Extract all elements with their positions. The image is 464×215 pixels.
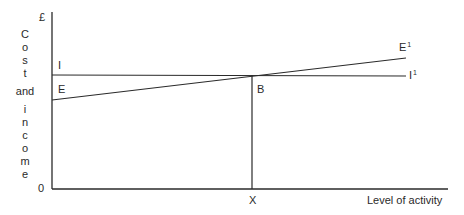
origin-label: 0 [38, 183, 44, 194]
income-end-superscript: 1 [413, 69, 417, 76]
break-even-point-label: B [257, 84, 264, 95]
y-label-letter: o [8, 142, 42, 155]
x-axis-label: Level of activity [367, 195, 442, 206]
y-axis-label: C o s t and i n c o m e [8, 28, 42, 181]
income-line-end-label: I1 [409, 70, 417, 81]
income-line-start-label: I [58, 60, 61, 71]
y-label-letter: i [8, 103, 42, 116]
y-label-letter: o [8, 41, 42, 54]
y-label-word: and [8, 85, 42, 98]
y-label-letter: c [8, 129, 42, 142]
y-label-letter: C [8, 28, 42, 41]
y-label-letter: m [8, 155, 42, 168]
y-label-letter: s [8, 54, 42, 67]
expenditure-end-superscript: 1 [407, 41, 411, 48]
currency-symbol-label: £ [39, 12, 45, 23]
expenditure-end-letter: E [399, 41, 406, 53]
income-line [52, 75, 406, 76]
x-marker-label: X [249, 195, 256, 206]
expenditure-line [52, 58, 406, 100]
income-end-letter: I [409, 69, 412, 81]
expenditure-line-start-label: E [58, 84, 65, 95]
y-label-letter: t [8, 67, 42, 80]
y-label-letter: n [8, 116, 42, 129]
diagram-canvas [0, 0, 464, 215]
expenditure-line-end-label: E1 [399, 42, 411, 53]
y-label-letter: e [8, 168, 42, 181]
